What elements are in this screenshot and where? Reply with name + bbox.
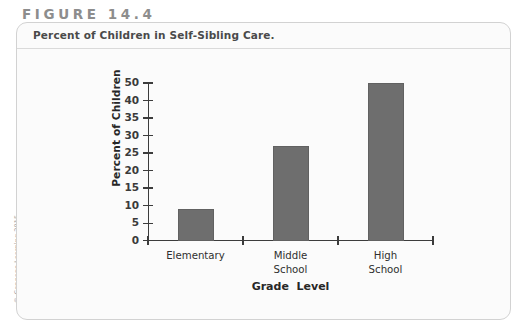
figure-number-label: FIGURE 14.4 (22, 6, 156, 22)
figure-panel: Percent of Children in Self-Sibling Care… (16, 22, 511, 320)
figure-caption-bar: Percent of Children in Self-Sibling Care… (17, 23, 510, 49)
figure-caption-text: Percent of Children in Self-Sibling Care… (33, 29, 275, 41)
